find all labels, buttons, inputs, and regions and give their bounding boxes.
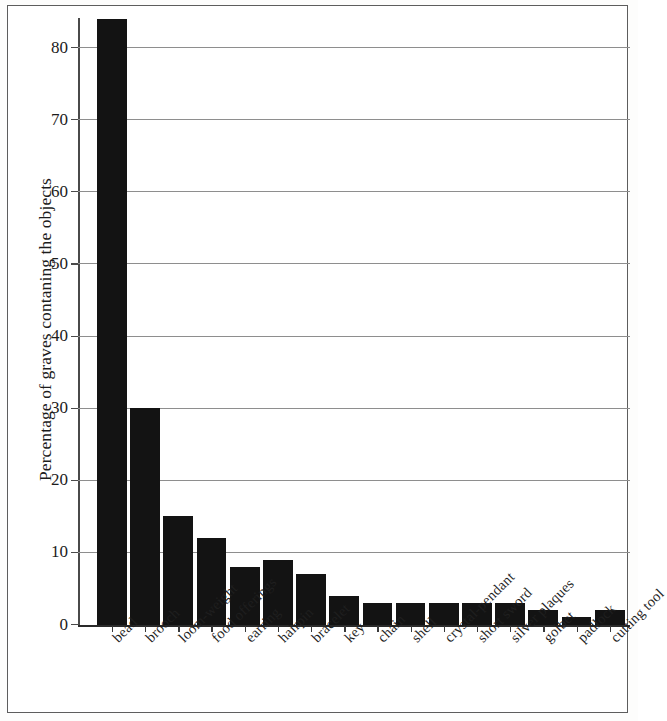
- gridline: [78, 47, 630, 48]
- y-axis-line: [78, 18, 80, 626]
- gridline: [78, 119, 630, 120]
- y-tick-label: 10: [22, 543, 68, 560]
- y-tick-mark: [71, 47, 78, 48]
- y-tick-mark: [71, 480, 78, 481]
- y-tick-mark: [71, 263, 78, 264]
- gridline: [78, 408, 630, 409]
- y-tick-mark: [71, 336, 78, 337]
- y-tick-label: 70: [22, 111, 68, 128]
- gridline: [78, 336, 630, 337]
- gridline: [78, 552, 630, 553]
- y-tick-mark: [71, 408, 78, 409]
- x-axis-labels-group: beadbroochloom-weightfood offeringsearri…: [78, 626, 630, 716]
- gridline: [78, 480, 630, 481]
- bar: [130, 408, 160, 624]
- figure-frame: Percentage of graves contaning the objec…: [7, 5, 628, 713]
- gridline: [78, 263, 630, 264]
- y-tick-label: 20: [22, 471, 68, 488]
- y-tick-label: 40: [22, 327, 68, 344]
- y-tick-label: 60: [22, 183, 68, 200]
- y-tick-mark: [71, 552, 78, 553]
- y-tick-label: 0: [22, 616, 68, 633]
- y-tick-label: 30: [22, 399, 68, 416]
- gridline: [78, 191, 630, 192]
- y-tick-mark: [71, 624, 78, 625]
- y-tick-mark: [71, 191, 78, 192]
- bar: [97, 19, 127, 625]
- y-tick-mark: [71, 119, 78, 120]
- plot-area: 01020304050607080: [78, 18, 630, 626]
- y-tick-label: 80: [22, 39, 68, 56]
- y-tick-label: 50: [22, 255, 68, 272]
